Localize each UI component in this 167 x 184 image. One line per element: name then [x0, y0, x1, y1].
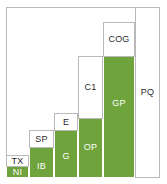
bar-op-label: OP	[79, 143, 102, 152]
box-sp-label: SP	[35, 135, 47, 144]
box-cog-label: COG	[108, 35, 129, 44]
bar-g-label: G	[55, 152, 77, 161]
bar-op[interactable]: OP	[78, 118, 103, 178]
box-c1-label: C1	[85, 83, 97, 92]
bar-g[interactable]: G	[54, 130, 78, 178]
box-sp[interactable]: SP	[29, 130, 54, 148]
box-pq-label: PQ	[141, 88, 154, 97]
box-tx-label: TX	[12, 157, 24, 166]
bar-ib-label: IB	[30, 162, 53, 171]
box-tx[interactable]: TX	[6, 155, 29, 167]
bar-ni-label: NI	[13, 168, 22, 177]
box-e-label: E	[63, 118, 69, 127]
bar-ni[interactable]: NI	[6, 166, 29, 178]
bar-gp[interactable]: GP	[103, 56, 135, 178]
bar-gp-label: GP	[104, 99, 134, 108]
box-cog[interactable]: COG	[103, 22, 135, 57]
box-c1[interactable]: C1	[78, 56, 103, 119]
bar-ib[interactable]: IB	[29, 147, 54, 178]
waterfall-chart: NI IB G OP GP TX SP E C1 COG PQ	[0, 0, 167, 184]
box-e[interactable]: E	[54, 113, 78, 131]
box-pq[interactable]: PQ	[135, 7, 160, 178]
